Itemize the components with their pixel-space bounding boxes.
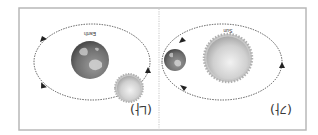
earth-icon bbox=[71, 41, 109, 79]
sun-icon bbox=[204, 34, 252, 82]
earth-tag: Earth bbox=[84, 31, 96, 37]
earth-icon bbox=[164, 49, 186, 71]
panel-ga: Sun (가) bbox=[162, 24, 292, 117]
sun-tag: Sun bbox=[223, 28, 232, 34]
orbit-diagram: Sun (가) Earth bbox=[0, 0, 318, 135]
orbit-arrow-icon bbox=[279, 62, 285, 68]
panel-label-na: (나) bbox=[130, 102, 152, 117]
orbit-arrow-icon bbox=[145, 67, 151, 73]
panel-na: Earth (나) bbox=[34, 24, 152, 117]
outer-frame bbox=[19, 8, 306, 130]
orbit-arrow-icon bbox=[39, 82, 48, 90]
figure: Sun (가) Earth bbox=[0, 0, 318, 135]
panel-label-ga: (가) bbox=[270, 102, 292, 117]
orbit-arrow-icon bbox=[179, 37, 186, 43]
sun-icon bbox=[115, 74, 143, 102]
